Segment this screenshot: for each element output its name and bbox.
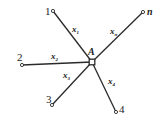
edge-label-xn: xn [109,26,118,37]
edge-3-A [52,62,92,105]
edge-label-x2: x2 [50,51,59,62]
edge-4-A [92,62,116,112]
center-node-label: A [87,46,95,57]
node-label-n: n [147,6,153,17]
node-2-marker [20,63,23,66]
edge-2-A [22,62,92,65]
edges-group [22,11,143,112]
star-network-diagram: x1xnx2x3x41n234A [0,0,162,124]
node-n-marker [141,10,144,13]
node-1-marker [51,9,54,12]
edge-label-x3: x3 [62,70,71,81]
edge-1-A [53,11,92,62]
node-4-marker [114,110,117,113]
edge-label-x4: x4 [107,76,116,87]
node-label-3: 3 [46,93,52,105]
nodes-group [20,9,144,113]
node-label-4: 4 [119,103,125,115]
edge-label-x1: x1 [71,24,79,35]
node-label-1: 1 [45,5,51,17]
center-node-A-marker [89,59,95,65]
node-label-2: 2 [17,51,23,63]
edge-n-A [92,12,143,62]
